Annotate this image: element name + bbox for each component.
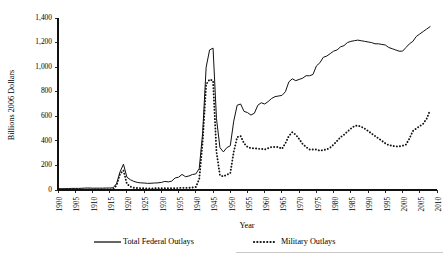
- series-military-outlays: [58, 79, 430, 189]
- x-tick-label: 1940: [194, 197, 202, 212]
- y-tick-label: 200: [41, 160, 52, 169]
- x-tick-label: 1960: [263, 197, 271, 212]
- x-tick-label: 1910: [91, 197, 99, 212]
- legend-label-total-federal-outlays: Total Federal Outlays: [123, 237, 194, 246]
- x-tick-label: 1985: [349, 197, 357, 212]
- chart-figure: 02004006008001,0001,2001,400 19001905191…: [0, 0, 443, 258]
- y-tick-label: 600: [41, 111, 52, 120]
- x-tick-label: 1920: [125, 197, 133, 212]
- y-tick-label: 1,000: [35, 62, 52, 71]
- x-tick-label: 2000: [401, 197, 409, 212]
- x-tick-label: 2010: [435, 197, 443, 212]
- x-tick-label: 1925: [142, 197, 150, 212]
- x-axis-title: Year: [239, 221, 254, 230]
- series-total-federal-outlays: [58, 27, 430, 189]
- x-tick-label: 1935: [177, 197, 185, 212]
- x-tick-label: 1950: [229, 197, 237, 212]
- y-axis-ticks: 02004006008001,0001,2001,400: [35, 13, 58, 194]
- x-tick-label: 1915: [108, 197, 116, 212]
- x-tick-label: 1975: [315, 197, 323, 212]
- x-tick-label: 1945: [211, 197, 219, 212]
- x-tick-label: 1955: [246, 197, 254, 212]
- chart-legend: Total Federal Outlays Military Outlays: [94, 237, 335, 246]
- x-tick-label: 1905: [73, 197, 81, 212]
- x-tick-label: 2005: [418, 197, 426, 212]
- x-axis-ticks: 1900190519101915192019251930193519401945…: [56, 190, 443, 211]
- x-tick-label: 1930: [160, 197, 168, 212]
- x-tick-label: 1900: [56, 197, 64, 212]
- footer-divider: [236, 252, 443, 253]
- outlays-line-chart: 02004006008001,0001,2001,400 19001905191…: [0, 0, 443, 258]
- y-tick-label: 1,200: [35, 37, 52, 46]
- y-axis-title: Billions 2006 Dollars: [7, 70, 16, 141]
- legend-label-military-outlays: Military Outlays: [281, 237, 335, 246]
- y-tick-label: 800: [41, 86, 52, 95]
- x-tick-label: 1990: [366, 197, 374, 212]
- x-tick-label: 1970: [297, 197, 305, 212]
- y-tick-label: 400: [41, 136, 52, 145]
- y-tick-label: 0: [48, 185, 52, 194]
- x-tick-label: 1995: [384, 197, 392, 212]
- x-tick-label: 1980: [332, 197, 340, 212]
- y-tick-label: 1,400: [35, 13, 52, 22]
- x-tick-label: 1965: [280, 197, 288, 212]
